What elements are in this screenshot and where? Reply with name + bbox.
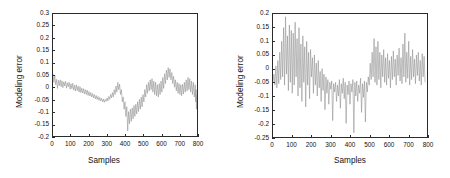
y-tick-label: 0.05 (248, 51, 269, 57)
y-tick-label: -0.1 (28, 109, 49, 115)
chart-left: Modeling error Samples -0.2-0.15-0.1-0.0… (0, 0, 225, 178)
y-tick-mark (52, 100, 55, 101)
x-tick-mark (143, 134, 144, 137)
y-tick-mark (52, 63, 55, 64)
y-tick-label: 0.25 (28, 22, 49, 28)
y-tick-mark (272, 82, 275, 83)
y-tick-label: 0.05 (28, 72, 49, 78)
y-tick-mark (52, 137, 55, 138)
plot-area-right (272, 13, 428, 138)
x-tick-label: 800 (187, 141, 209, 147)
y-tick-mark (52, 13, 55, 14)
x-tick-mark (125, 134, 126, 137)
x-axis-title-right: Samples (334, 157, 366, 165)
x-tick-mark (107, 134, 108, 137)
x-tick-mark (292, 135, 293, 138)
x-tick-label: 800 (417, 142, 439, 148)
chart-right: Modeling error Samples -0.25-0.2-0.15-0.… (225, 0, 450, 178)
x-tick-mark (70, 134, 71, 137)
y-tick-label: 0.3 (28, 10, 49, 16)
series-path (53, 68, 197, 131)
y-tick-mark (272, 55, 275, 56)
y-tick-label: 0 (28, 84, 49, 90)
trace-left (53, 14, 197, 136)
y-tick-label: 0.1 (248, 38, 269, 44)
y-tick-mark (272, 124, 275, 125)
plot-area-left (52, 13, 198, 137)
trace-right (273, 14, 427, 137)
y-tick-label: 0.15 (28, 47, 49, 53)
y-tick-label: -0.15 (248, 107, 269, 113)
x-tick-mark (350, 135, 351, 138)
y-tick-mark (52, 125, 55, 126)
y-tick-label: -0.15 (28, 121, 49, 127)
y-tick-mark (52, 75, 55, 76)
x-axis-title-left: Samples (88, 157, 120, 165)
y-tick-label: 0.2 (28, 35, 49, 41)
x-tick-mark (272, 135, 273, 138)
y-tick-label: 0.15 (248, 24, 269, 30)
x-tick-mark (389, 135, 390, 138)
x-tick-mark (370, 135, 371, 138)
y-tick-label: -0.2 (248, 121, 269, 127)
y-tick-mark (272, 41, 275, 42)
x-tick-mark (428, 135, 429, 138)
y-tick-mark (52, 112, 55, 113)
y-axis-title-left: Modeling error (16, 55, 24, 108)
y-tick-label: 0.1 (28, 59, 49, 65)
y-tick-mark (272, 27, 275, 28)
y-tick-label: 0 (248, 65, 269, 71)
x-tick-mark (198, 134, 199, 137)
y-tick-label: -0.25 (248, 135, 269, 141)
x-tick-mark (89, 134, 90, 137)
y-tick-mark (272, 138, 275, 139)
y-tick-mark (272, 110, 275, 111)
y-axis-title-right: Modeling error (237, 55, 245, 108)
y-tick-mark (52, 25, 55, 26)
y-tick-label: -0.05 (28, 97, 49, 103)
y-tick-mark (272, 96, 275, 97)
y-tick-mark (272, 69, 275, 70)
x-tick-mark (180, 134, 181, 137)
y-tick-mark (52, 38, 55, 39)
x-tick-mark (162, 134, 163, 137)
y-tick-label: -0.05 (248, 79, 269, 85)
y-tick-label: -0.1 (248, 93, 269, 99)
y-tick-mark (52, 50, 55, 51)
y-tick-mark (272, 13, 275, 14)
y-tick-label: -0.2 (28, 134, 49, 140)
x-tick-mark (52, 134, 53, 137)
y-tick-label: 0.2 (248, 10, 269, 16)
x-tick-mark (311, 135, 312, 138)
x-tick-mark (409, 135, 410, 138)
series-path (273, 17, 425, 133)
y-tick-mark (52, 87, 55, 88)
x-tick-mark (331, 135, 332, 138)
